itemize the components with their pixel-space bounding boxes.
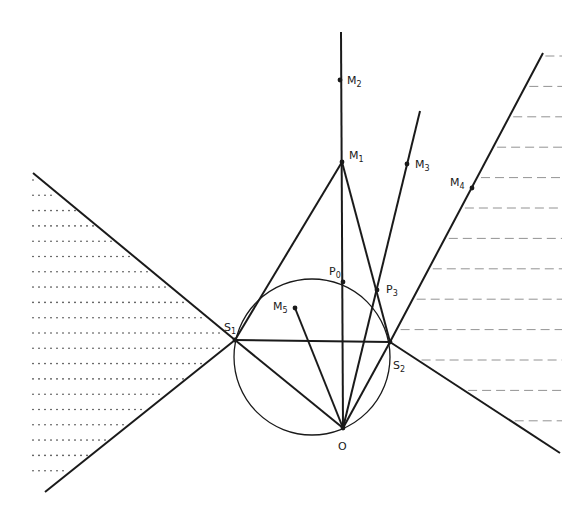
label-m5: M5 bbox=[273, 300, 288, 315]
point-labels: OS1S2M1M2M3M4M5P0P3 bbox=[224, 74, 465, 453]
label-m1: M1 bbox=[349, 149, 364, 164]
label-m2: M2 bbox=[347, 74, 362, 89]
diagram-canvas: OS1S2M1M2M3M4M5P0P3 bbox=[0, 0, 586, 519]
dashed-region-right bbox=[401, 56, 562, 421]
label-s1: S1 bbox=[224, 321, 236, 336]
label-m3: M3 bbox=[415, 158, 430, 173]
label-m4: M4 bbox=[450, 176, 465, 191]
label-s2: S2 bbox=[393, 359, 405, 374]
label-p3: P3 bbox=[386, 283, 398, 298]
construction-lines bbox=[33, 32, 560, 492]
point-markers bbox=[233, 78, 475, 431]
label-o: O bbox=[338, 440, 347, 453]
label-p0: P0 bbox=[329, 265, 341, 280]
